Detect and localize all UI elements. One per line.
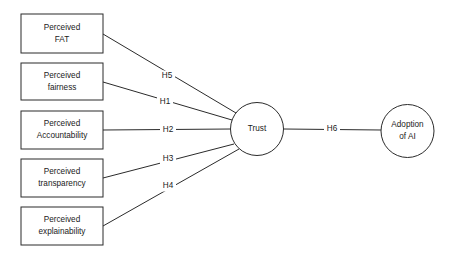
box-outline-perceived-explainability — [21, 207, 103, 245]
path-label-text-h1: H1 — [160, 97, 171, 106]
box-label-line2-perceived-accountability: Accountability — [37, 131, 88, 140]
box-label-line2-perceived-explainability: explainability — [39, 227, 87, 236]
path-label-h5: H5 — [159, 71, 175, 82]
path-label-text-h4: H4 — [163, 181, 174, 190]
conceptual-model-diagram: PerceivedFATPerceivedfairnessPerceivedAc… — [0, 0, 453, 261]
box-label-line1-perceived-transparency: Perceived — [44, 167, 81, 176]
box-label-line1-perceived-fat: Perceived — [44, 23, 81, 32]
box-outline-perceived-fairness — [21, 63, 103, 100]
path-label-text-h5: H5 — [162, 71, 173, 80]
circle-label-trust: Trust — [248, 124, 267, 133]
construct-box-perceived-fairness[interactable]: Perceivedfairness — [21, 63, 103, 100]
construct-circle-adoption-of-ai[interactable]: Adoptionof AI — [381, 105, 434, 158]
construct-box-perceived-fat[interactable]: PerceivedFAT — [21, 14, 103, 53]
construct-box-perceived-accountability[interactable]: PerceivedAccountability — [21, 111, 103, 149]
box-outline-perceived-transparency — [21, 159, 103, 197]
path-label-h4: H4 — [160, 181, 176, 192]
circle-outline-adoption-of-ai — [381, 105, 434, 158]
box-outline-perceived-fat — [21, 14, 103, 53]
box-label-line2-perceived-transparency: transparency — [38, 179, 86, 188]
box-label-line1-perceived-accountability: Perceived — [44, 119, 81, 128]
diagram-canvas: PerceivedFATPerceivedfairnessPerceivedAc… — [0, 0, 453, 261]
construct-box-perceived-explainability[interactable]: Perceivedexplainability — [21, 207, 103, 245]
box-label-line1-perceived-explainability: Perceived — [44, 215, 81, 224]
path-label-h3: H3 — [160, 154, 176, 165]
circle-label-line2-adoption-of-ai: of AI — [399, 132, 415, 141]
path-label-h1: H1 — [157, 97, 173, 108]
circle-label-line1-adoption-of-ai: Adoption — [391, 120, 424, 129]
box-outline-perceived-accountability — [21, 111, 103, 149]
path-label-h2: H2 — [160, 125, 176, 136]
path-label-text-h6: H6 — [327, 124, 338, 133]
box-label-line2-perceived-fat: FAT — [55, 35, 69, 44]
path-label-text-h3: H3 — [163, 154, 174, 163]
construct-box-perceived-transparency[interactable]: Perceivedtransparency — [21, 159, 103, 197]
construct-boxes-group: PerceivedFATPerceivedfairnessPerceivedAc… — [21, 14, 103, 245]
box-label-line2-perceived-fairness: fairness — [48, 83, 77, 92]
path-label-text-h2: H2 — [163, 125, 174, 134]
path-label-h6: H6 — [324, 124, 340, 135]
box-label-line1-perceived-fairness: Perceived — [44, 71, 81, 80]
construct-circle-trust[interactable]: Trust — [231, 103, 284, 156]
